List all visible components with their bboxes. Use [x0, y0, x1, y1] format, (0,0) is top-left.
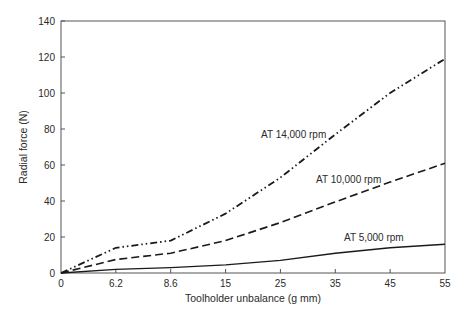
line-chart: 020406080100120140 06.28.61525354555 AT …	[0, 0, 469, 318]
y-tick-label: 100	[38, 88, 55, 99]
y-tick-label: 140	[38, 16, 55, 27]
y-tick-label: 40	[44, 196, 56, 207]
x-tick-label: 35	[330, 278, 342, 289]
series-label: AT 5,000 rpm	[344, 232, 404, 243]
series-line-at-5-000-rpm	[61, 244, 445, 273]
x-tick-label: 8.6	[164, 278, 178, 289]
y-axis-title: Radial force (N)	[17, 110, 29, 184]
x-tick-label: 0	[58, 278, 64, 289]
x-tick-label: 6.2	[109, 278, 123, 289]
x-tick-label: 45	[385, 278, 397, 289]
x-tick-label: 25	[275, 278, 287, 289]
series-line-at-10-000-rpm	[61, 163, 445, 273]
series-label: AT 10,000 rpm	[316, 174, 381, 185]
x-axis: 06.28.61525354555	[58, 269, 451, 289]
series-label: AT 14,000 rpm	[261, 129, 326, 140]
y-tick-label: 120	[38, 52, 55, 63]
x-axis-title: Toolholder unbalance (g mm)	[185, 292, 321, 304]
y-tick-label: 60	[44, 160, 56, 171]
x-tick-label: 55	[439, 278, 451, 289]
x-tick-label: 15	[220, 278, 232, 289]
y-tick-label: 20	[44, 232, 56, 243]
series-labels: AT 14,000 rpmAT 10,000 rpmAT 5,000 rpm	[261, 129, 404, 243]
y-tick-label: 0	[49, 268, 55, 279]
y-tick-label: 80	[44, 124, 56, 135]
